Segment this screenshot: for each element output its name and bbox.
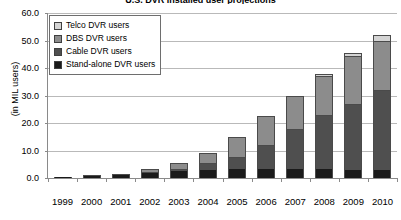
legend-item[interactable]: Telco DVR users: [54, 19, 155, 32]
x-axis-tick-mark: [339, 178, 340, 182]
y-axis-tick-mark: [45, 151, 48, 152]
legend-swatch-icon: [54, 22, 62, 30]
bar-segment[interactable]: [257, 116, 275, 145]
bar-segment[interactable]: [286, 129, 304, 169]
y-axis-tick-mark: [45, 68, 48, 69]
bar-segment[interactable]: [373, 170, 391, 178]
bar-segment[interactable]: [228, 137, 246, 158]
bar-segment[interactable]: [315, 76, 333, 115]
bar-segment[interactable]: [199, 170, 217, 178]
x-axis-tick-mark: [310, 178, 311, 182]
x-axis-tick-mark: [77, 178, 78, 182]
y-axis-tick-mark: [45, 123, 48, 124]
bar-segment[interactable]: [344, 170, 362, 178]
y-axis-tick-mark: [45, 41, 48, 42]
y-axis-tick-label: 20.0: [0, 119, 39, 128]
y-axis-tick-label: 60.0: [0, 9, 39, 18]
bar-segment[interactable]: [344, 104, 362, 170]
legend-item[interactable]: Cable DVR users: [54, 45, 155, 58]
legend-label: Cable DVR users: [66, 47, 132, 56]
x-axis-tick-mark: [252, 178, 253, 182]
bar-segment[interactable]: [286, 169, 304, 178]
bar-column[interactable]: [373, 35, 391, 178]
bar-column[interactable]: [54, 177, 72, 178]
x-axis-tick-mark: [48, 178, 49, 182]
legend-item[interactable]: Stand-alone DVR users: [54, 58, 155, 71]
legend-label: Stand-alone DVR users: [66, 60, 155, 69]
x-axis-tick-mark: [281, 178, 282, 182]
bar-column[interactable]: [257, 116, 275, 178]
gridline: [48, 13, 397, 14]
bar-segment[interactable]: [141, 173, 159, 179]
bar-segment[interactable]: [344, 56, 362, 104]
x-axis-tick-mark: [397, 178, 398, 182]
bar-segment[interactable]: [54, 177, 72, 178]
legend-item[interactable]: DBS DVR users: [54, 32, 155, 45]
bar-segment[interactable]: [228, 157, 246, 169]
legend-swatch-icon: [54, 48, 62, 56]
x-axis-tick-mark: [106, 178, 107, 182]
x-axis-tick-mark: [135, 178, 136, 182]
bar-column[interactable]: [286, 96, 304, 178]
bar-segment[interactable]: [199, 163, 217, 170]
y-axis-tick-label: 50.0: [0, 37, 39, 46]
y-axis-tick-label: 40.0: [0, 64, 39, 73]
bar-column[interactable]: [228, 137, 246, 178]
x-axis-tick-label: 2010: [365, 196, 399, 207]
bar-column[interactable]: [199, 153, 217, 178]
bar-column[interactable]: [315, 74, 333, 178]
legend-swatch-icon: [54, 61, 62, 69]
bar-column[interactable]: [344, 53, 362, 178]
bar-segment[interactable]: [373, 90, 391, 170]
chart-container: U.S. DVR installed user projections (in …: [0, 0, 401, 220]
y-axis-tick-label: 0.0: [0, 174, 39, 183]
bar-column[interactable]: [83, 175, 101, 178]
y-axis-tick-label: 10.0: [0, 147, 39, 156]
legend-label: DBS DVR users: [66, 34, 127, 43]
bar-segment[interactable]: [199, 153, 217, 163]
chart-legend: Telco DVR usersDBS DVR usersCable DVR us…: [49, 15, 161, 75]
chart-title: U.S. DVR installed user projections: [0, 0, 401, 4]
bar-segment[interactable]: [286, 96, 304, 129]
y-axis-tick-mark: [45, 96, 48, 97]
bar-segment[interactable]: [83, 176, 101, 178]
bar-column[interactable]: [112, 174, 130, 178]
bar-segment[interactable]: [315, 115, 333, 169]
bar-segment[interactable]: [228, 169, 246, 178]
bar-segment[interactable]: [257, 145, 275, 169]
y-axis-tick-mark: [45, 13, 48, 14]
x-axis-tick-mark: [223, 178, 224, 182]
bar-segment[interactable]: [257, 169, 275, 178]
bar-column[interactable]: [141, 169, 159, 178]
legend-swatch-icon: [54, 35, 62, 43]
x-axis-tick-mark: [193, 178, 194, 182]
bar-column[interactable]: [170, 163, 188, 178]
y-axis-tick-label: 30.0: [0, 92, 39, 101]
bar-segment[interactable]: [315, 169, 333, 178]
x-axis-tick-mark: [164, 178, 165, 182]
x-axis-tick-mark: [368, 178, 369, 182]
bar-segment[interactable]: [373, 41, 391, 91]
bar-segment[interactable]: [170, 171, 188, 178]
bar-segment[interactable]: [112, 175, 130, 178]
legend-label: Telco DVR users: [66, 21, 129, 30]
